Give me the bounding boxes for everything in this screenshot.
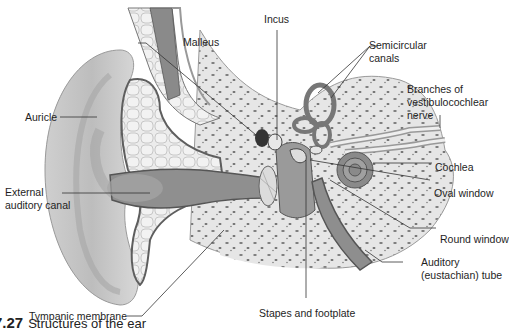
label-auditory-tube-line2: (eustachian) tube xyxy=(421,269,502,282)
label-branches-line1: Branches of xyxy=(407,83,463,96)
label-malleus: Malleus xyxy=(183,36,219,49)
malleus-shape xyxy=(255,129,269,147)
label-semicircular-line2: canals xyxy=(369,52,399,65)
label-external-canal-line1: External xyxy=(5,186,44,199)
ear-anatomy-diagram: Auricle External auditory canal Tympanic… xyxy=(0,0,509,328)
label-oval-window: Oval window xyxy=(434,187,494,200)
label-incus: Incus xyxy=(264,13,289,26)
label-branches-line2: vestibulocochlear xyxy=(407,96,488,109)
label-semicircular-line1: Semicircular xyxy=(369,39,427,52)
caption-text: Structures of the ear xyxy=(28,316,146,328)
tympanic-membrane-shape xyxy=(259,166,277,206)
incus-shape xyxy=(268,134,282,150)
label-stapes: Stapes and footplate xyxy=(259,307,355,320)
label-cochlea: Cochlea xyxy=(435,161,474,174)
figure-caption: 7.27Structures of the ear xyxy=(0,314,146,328)
caption-number: 7.27 xyxy=(0,314,23,328)
label-round-window: Round window xyxy=(440,233,509,246)
label-branches-line3: nerve xyxy=(407,109,433,122)
label-external-canal-line2: auditory canal xyxy=(5,199,70,212)
label-auditory-tube-line1: Auditory xyxy=(421,256,460,269)
label-auricle: Auricle xyxy=(25,111,57,124)
